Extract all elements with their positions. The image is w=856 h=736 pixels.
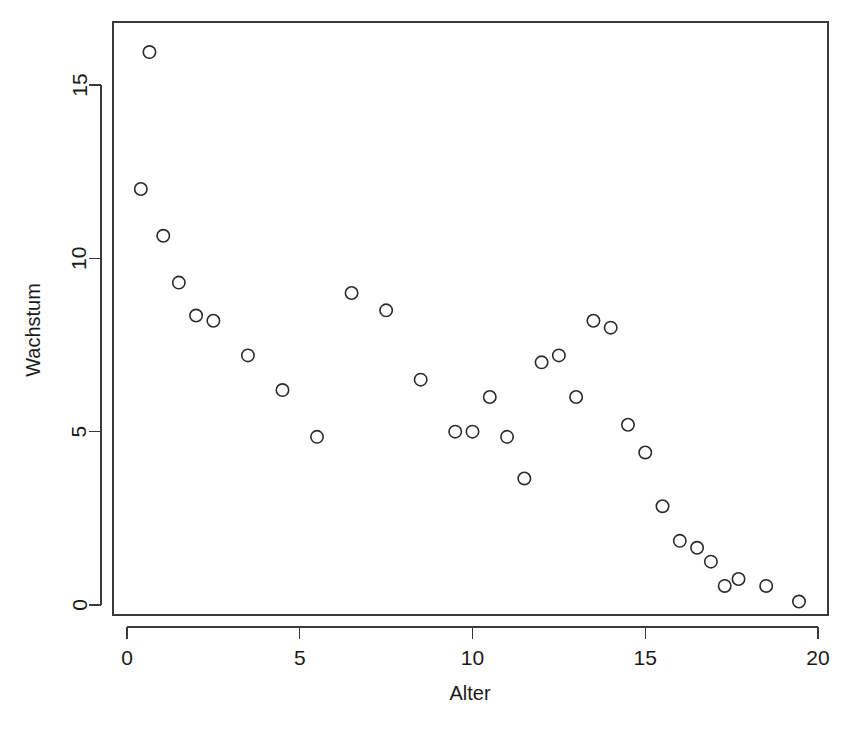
y-axis-title: Wachstum [22, 283, 44, 377]
data-point-marker [143, 46, 155, 58]
data-point-marker [135, 183, 147, 195]
y-tick-label: 0 [68, 599, 91, 611]
data-point-marker [570, 391, 582, 403]
y-tick-label: 5 [68, 426, 91, 438]
data-point-marker [622, 419, 634, 431]
y-tick-label: 10 [68, 247, 91, 270]
data-point-marker [705, 555, 717, 567]
data-point-marker [466, 425, 478, 437]
data-point-marker [501, 431, 513, 443]
plot-canvas: 05101520 051015 Alter Wachstum [0, 0, 856, 736]
x-tick-label: 10 [461, 646, 484, 669]
data-point-marker [173, 276, 185, 288]
x-tick-label: 20 [806, 646, 829, 669]
data-point-marker [760, 580, 772, 592]
scatter-plot-figure: 05101520 051015 Alter Wachstum [0, 0, 856, 736]
data-point-marker [605, 321, 617, 333]
data-point-marker [719, 580, 731, 592]
x-tick-label: 5 [294, 646, 306, 669]
data-point-marker [553, 349, 565, 361]
data-point-marker [449, 425, 461, 437]
data-point-marker [345, 287, 357, 299]
x-axis: 05101520 [121, 627, 830, 669]
data-point-marker [311, 431, 323, 443]
data-point-marker [276, 384, 288, 396]
data-point-marker [535, 356, 547, 368]
data-point-marker [639, 446, 651, 458]
data-point-marker [157, 230, 169, 242]
data-point-marker [793, 595, 805, 607]
data-points [135, 46, 806, 608]
data-point-marker [691, 542, 703, 554]
data-point-marker [414, 373, 426, 385]
data-point-marker [207, 315, 219, 327]
plot-box [113, 22, 828, 615]
data-point-marker [242, 349, 254, 361]
x-tick-label: 15 [634, 646, 657, 669]
data-point-marker [732, 573, 744, 585]
y-axis: 051015 [68, 73, 102, 611]
data-point-marker [587, 315, 599, 327]
x-axis-title: Alter [449, 682, 490, 704]
y-tick-label: 15 [68, 73, 91, 96]
plot-frame [113, 22, 828, 615]
data-point-marker [380, 304, 392, 316]
data-point-marker [518, 472, 530, 484]
x-tick-label: 0 [121, 646, 133, 669]
data-point-marker [656, 500, 668, 512]
data-point-marker [190, 309, 202, 321]
data-point-marker [674, 535, 686, 547]
data-point-marker [484, 391, 496, 403]
